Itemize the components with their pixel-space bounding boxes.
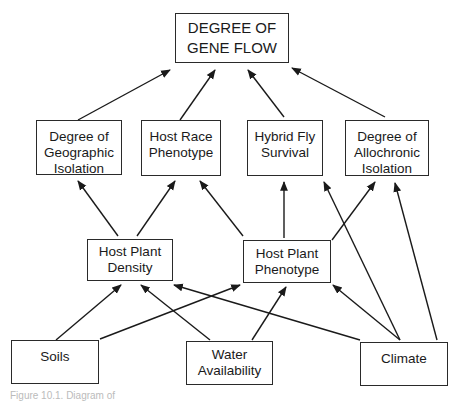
node-label: Soils [40, 349, 69, 365]
node-gene-flow: DEGREE OF GENE FLOW [175, 13, 289, 63]
node-water: Water Availability [186, 341, 273, 385]
arrow-climate-to-allochronic [395, 183, 437, 340]
arrow-climate-to-plant_density [174, 285, 360, 340]
arrow-plant_density-to-host_race [137, 181, 175, 236]
arrow-plant_density-to-geo_isolation [78, 181, 118, 236]
node-soils: Soils [11, 340, 99, 384]
arrow-soils-to-plant_density [56, 285, 121, 340]
node-geo-isolation: Degree of Geographic Isolation [36, 120, 122, 175]
node-plant-phenotype: Host Plant Phenotype [243, 240, 331, 283]
node-allochronic: Degree of Allochronic Isolation [345, 120, 429, 176]
node-hybrid-survival: Hybrid Fly Survival [247, 120, 323, 176]
node-label: Degree of Geographic Isolation [44, 129, 114, 177]
arrow-climate-to-hybrid_survival [324, 182, 400, 340]
node-label: Host Plant Phenotype [255, 246, 320, 278]
node-plant-density: Host Plant Density [87, 239, 173, 281]
node-host-race: Host Race Phenotype [141, 120, 221, 176]
arrow-allochronic-to-gene_flow [292, 68, 385, 117]
arrow-climate-to-plant_phenotype [333, 285, 400, 340]
arrow-water-to-plant_phenotype [252, 287, 286, 340]
arrow-host_race-to-gene_flow [180, 70, 215, 120]
node-label: Climate [381, 351, 427, 367]
figure-caption: Figure 10.1. Diagram of [10, 390, 115, 401]
arrow-hybrid_survival-to-gene_flow [248, 70, 284, 117]
node-label: Host Plant Density [99, 244, 161, 276]
node-climate: Climate [360, 342, 448, 386]
node-label: Hybrid Fly Survival [255, 129, 316, 161]
node-label: Degree of Allochronic Isolation [354, 129, 420, 177]
arrow-soils-to-plant_phenotype [100, 285, 240, 339]
node-label: Host Race Phenotype [149, 129, 214, 161]
node-label: DEGREE OF GENE FLOW [187, 18, 277, 58]
arrow-geo_isolation-to-gene_flow [78, 70, 170, 120]
arrow-plant_phenotype-to-host_race [200, 181, 243, 236]
node-label: Water Availability [198, 347, 262, 379]
